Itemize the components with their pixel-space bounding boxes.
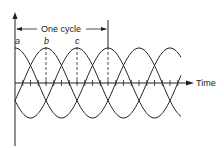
cycle-arrow-left-icon — [16, 27, 22, 31]
x-axis-label: Time — [196, 78, 216, 88]
three-phase-diagram: Time One cycle a b c — [0, 0, 224, 148]
y-axis-arrow-icon — [13, 12, 18, 19]
cycle-arrow-right-icon — [101, 27, 107, 31]
phase-label-b: b — [44, 36, 49, 46]
x-axis-arrow-icon — [186, 81, 194, 86]
phase-label-a: a — [15, 36, 20, 46]
phase-label-c: c — [75, 36, 80, 46]
cycle-label: One cycle — [41, 24, 81, 34]
